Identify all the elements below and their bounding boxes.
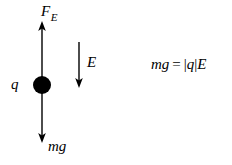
equation-operator: = <box>169 56 183 72</box>
electric-field-label: E <box>87 55 96 70</box>
diagram-canvas <box>0 0 232 165</box>
equation-field-symbol: E <box>197 56 206 72</box>
electric-force-symbol: F <box>41 3 50 19</box>
charge-label: q <box>11 77 19 92</box>
physics-diagram: FE q E mg mg=|q|E <box>0 0 232 165</box>
electric-force-label: FE <box>41 4 57 23</box>
equation-left-side: mg <box>151 56 169 72</box>
point-charge <box>33 76 51 94</box>
equilibrium-equation: mg=|q|E <box>151 57 207 72</box>
weight-label: mg <box>48 139 66 154</box>
electric-force-subscript: E <box>50 11 57 23</box>
